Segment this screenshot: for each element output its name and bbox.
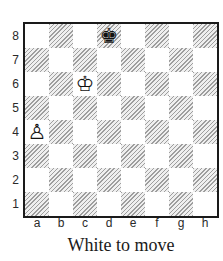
square-a4[interactable]: ♙ xyxy=(25,120,49,144)
square-b4[interactable] xyxy=(49,120,73,144)
square-b3[interactable] xyxy=(49,144,73,168)
square-d6[interactable] xyxy=(97,72,121,96)
square-h1[interactable] xyxy=(193,192,217,216)
rank-label-2: 2 xyxy=(0,168,19,192)
rank-label-7: 7 xyxy=(0,48,19,72)
rank-label-6: 6 xyxy=(0,72,19,96)
square-h4[interactable] xyxy=(193,120,217,144)
file-label-e: e xyxy=(121,217,145,230)
chess-board: ♚♔♙ xyxy=(23,22,219,218)
square-h5[interactable] xyxy=(193,96,217,120)
square-c2[interactable] xyxy=(73,168,97,192)
square-b5[interactable] xyxy=(49,96,73,120)
rank-label-5: 5 xyxy=(0,96,19,120)
square-d1[interactable] xyxy=(97,192,121,216)
square-g7[interactable] xyxy=(169,48,193,72)
square-f1[interactable] xyxy=(145,192,169,216)
rank-label-3: 3 xyxy=(0,144,19,168)
square-e2[interactable] xyxy=(121,168,145,192)
file-label-f: f xyxy=(145,217,169,230)
square-a2[interactable] xyxy=(25,168,49,192)
piece-white-king[interactable]: ♔ xyxy=(76,74,95,95)
file-label-b: b xyxy=(49,217,73,230)
square-a6[interactable] xyxy=(25,72,49,96)
square-b2[interactable] xyxy=(49,168,73,192)
square-g3[interactable] xyxy=(169,144,193,168)
square-c8[interactable] xyxy=(73,24,97,48)
square-f8[interactable] xyxy=(145,24,169,48)
file-label-h: h xyxy=(193,217,217,230)
square-c7[interactable] xyxy=(73,48,97,72)
square-f5[interactable] xyxy=(145,96,169,120)
square-f2[interactable] xyxy=(145,168,169,192)
square-e4[interactable] xyxy=(121,120,145,144)
rank-label-8: 8 xyxy=(0,24,19,48)
square-f6[interactable] xyxy=(145,72,169,96)
square-d8[interactable]: ♚ xyxy=(97,24,121,48)
file-label-a: a xyxy=(25,217,49,230)
square-h2[interactable] xyxy=(193,168,217,192)
square-d5[interactable] xyxy=(97,96,121,120)
square-f3[interactable] xyxy=(145,144,169,168)
chess-diagram-page: 87654321 ♚♔♙ abcdefgh White to move xyxy=(0,0,223,261)
square-c4[interactable] xyxy=(73,120,97,144)
square-a3[interactable] xyxy=(25,144,49,168)
square-a1[interactable] xyxy=(25,192,49,216)
square-a7[interactable] xyxy=(25,48,49,72)
square-e3[interactable] xyxy=(121,144,145,168)
square-b1[interactable] xyxy=(49,192,73,216)
square-d3[interactable] xyxy=(97,144,121,168)
piece-white-pawn[interactable]: ♙ xyxy=(28,122,47,143)
square-a8[interactable] xyxy=(25,24,49,48)
square-c1[interactable] xyxy=(73,192,97,216)
square-b6[interactable] xyxy=(49,72,73,96)
square-e1[interactable] xyxy=(121,192,145,216)
square-g2[interactable] xyxy=(169,168,193,192)
square-c5[interactable] xyxy=(73,96,97,120)
file-label-c: c xyxy=(73,217,97,230)
square-a5[interactable] xyxy=(25,96,49,120)
square-e5[interactable] xyxy=(121,96,145,120)
square-f7[interactable] xyxy=(145,48,169,72)
square-d7[interactable] xyxy=(97,48,121,72)
rank-label-1: 1 xyxy=(0,192,19,216)
square-g5[interactable] xyxy=(169,96,193,120)
square-e6[interactable] xyxy=(121,72,145,96)
square-h6[interactable] xyxy=(193,72,217,96)
square-h3[interactable] xyxy=(193,144,217,168)
square-g8[interactable] xyxy=(169,24,193,48)
square-c6[interactable]: ♔ xyxy=(73,72,97,96)
square-g6[interactable] xyxy=(169,72,193,96)
file-labels: abcdefgh xyxy=(25,217,217,230)
square-e8[interactable] xyxy=(121,24,145,48)
square-b8[interactable] xyxy=(49,24,73,48)
square-g1[interactable] xyxy=(169,192,193,216)
rank-labels: 87654321 xyxy=(0,24,19,216)
square-d4[interactable] xyxy=(97,120,121,144)
square-d2[interactable] xyxy=(97,168,121,192)
square-b7[interactable] xyxy=(49,48,73,72)
square-e7[interactable] xyxy=(121,48,145,72)
square-g4[interactable] xyxy=(169,120,193,144)
square-c3[interactable] xyxy=(73,144,97,168)
square-f4[interactable] xyxy=(145,120,169,144)
file-label-d: d xyxy=(97,217,121,230)
square-h8[interactable] xyxy=(193,24,217,48)
square-h7[interactable] xyxy=(193,48,217,72)
file-label-g: g xyxy=(169,217,193,230)
caption: White to move xyxy=(23,235,219,256)
piece-black-king[interactable]: ♚ xyxy=(100,26,119,47)
rank-label-4: 4 xyxy=(0,120,19,144)
